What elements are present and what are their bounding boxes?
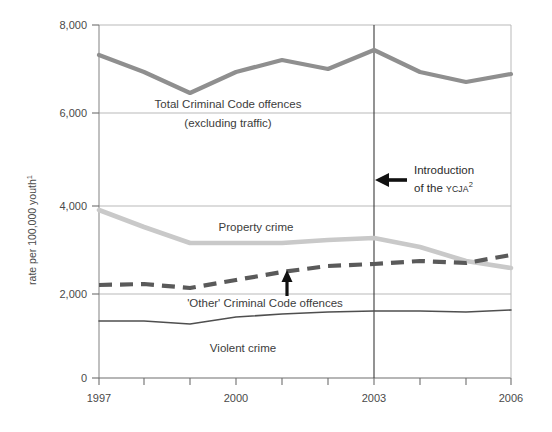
y-tick-label-6000: 6,000 bbox=[59, 107, 87, 119]
x-tick-label-2006: 2006 bbox=[499, 392, 523, 404]
youth-crime-rate-line-chart: 8,000 6,000 4,000 2,000 0 rate per 100,0… bbox=[0, 0, 552, 432]
chart-svg: 8,000 6,000 4,000 2,000 0 rate per 100,0… bbox=[0, 0, 552, 432]
svg-text:rate per 100,000 youth1: rate per 100,000 youth1 bbox=[25, 175, 38, 285]
x-tick-label-2000: 2000 bbox=[224, 392, 248, 404]
series-label-property-crime: Property crime bbox=[219, 221, 294, 233]
series-label-violent-crime: Violent crime bbox=[210, 342, 276, 354]
y-axis-title: rate per 100,000 youth1 bbox=[25, 175, 38, 285]
y-tick-label-0: 0 bbox=[81, 372, 87, 384]
ycja-annotation-prefix: of the bbox=[414, 182, 446, 194]
y-axis-title-superscript: 1 bbox=[25, 175, 34, 179]
ycja-annotation-line1: Introduction bbox=[414, 164, 474, 176]
series-label-other-criminal-code: 'Other' Criminal Code offences bbox=[187, 297, 343, 309]
y-tick-label-2000: 2,000 bbox=[59, 288, 87, 300]
chart-background bbox=[0, 0, 552, 432]
x-tick-label-1997: 1997 bbox=[87, 392, 111, 404]
ycja-annotation-superscript: 2 bbox=[469, 180, 473, 189]
series-label-total-criminal-code-line1: Total Criminal Code offences bbox=[155, 98, 302, 110]
series-label-total-criminal-code-line2: (excluding traffic) bbox=[184, 117, 272, 129]
y-tick-label-8000: 8,000 bbox=[59, 19, 87, 31]
y-tick-label-4000: 4,000 bbox=[59, 200, 87, 212]
ycja-annotation-acronym: YCJA bbox=[446, 184, 469, 194]
x-tick-label-2003: 2003 bbox=[362, 392, 386, 404]
y-axis-title-text: rate per 100,000 youth bbox=[26, 179, 38, 285]
